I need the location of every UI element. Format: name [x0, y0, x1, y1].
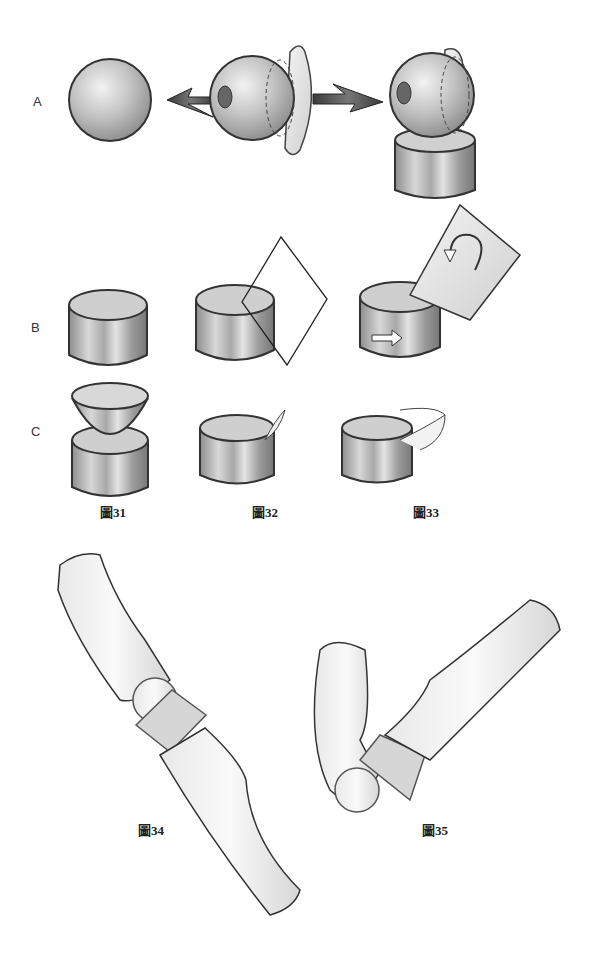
- sphere-plain: [69, 59, 151, 141]
- cylinder-with-rotated-cap: [360, 205, 520, 357]
- cylinder-with-cone: [72, 383, 148, 496]
- row-label-a: A: [33, 94, 42, 109]
- illustration-canvas: [0, 0, 597, 969]
- ball-and-socket-assembly: [390, 49, 475, 198]
- row-label-b: B: [31, 320, 40, 335]
- cylinder-with-flap: [342, 408, 445, 482]
- cylinder-with-cut-plane: [196, 237, 327, 365]
- row-label-c: C: [31, 424, 40, 439]
- figure-33-caption: 圖33: [413, 502, 439, 521]
- elbow-joint-extended: [58, 554, 300, 915]
- cylinder-with-curl: [200, 410, 285, 484]
- figure-31-caption: 圖31: [100, 502, 126, 521]
- sphere-with-socket: [210, 46, 311, 155]
- cylinder-plain: [69, 290, 147, 365]
- figure-32-caption: 圖32: [252, 502, 278, 521]
- figure-35-caption: 圖35: [422, 820, 448, 839]
- arrow-right-icon: [313, 84, 383, 112]
- figure-34-caption: 圖34: [138, 820, 164, 839]
- elbow-joint-flexed: [314, 600, 560, 812]
- arrow-left-icon: [167, 88, 215, 117]
